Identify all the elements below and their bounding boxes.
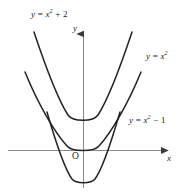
- curve-label-bottom-tail: − 1: [151, 115, 166, 125]
- curve-label-top-tail: + 2: [53, 9, 68, 19]
- graph-canvas: [0, 0, 182, 195]
- origin-label: O: [72, 152, 79, 162]
- y-axis-label: y: [73, 24, 77, 33]
- curve-label-y-equals-x-squared-minus-1: y = x2 − 1: [129, 116, 166, 125]
- x-axis-label: x: [167, 154, 171, 163]
- curve-label-top-eq: =: [35, 9, 45, 19]
- curve-label-y-equals-x-squared-plus-2: y = x2 + 2: [31, 10, 68, 19]
- curve-label-bottom-eq: =: [133, 115, 143, 125]
- curve-label-mid-exponent: 2: [165, 49, 168, 56]
- curve-label-mid-eq: =: [150, 51, 160, 61]
- parabola-figure: y = x2 + 2 y = x2 y = x2 − 1 y x O: [0, 0, 182, 195]
- curve-label-y-equals-x-squared: y = x2: [146, 52, 168, 61]
